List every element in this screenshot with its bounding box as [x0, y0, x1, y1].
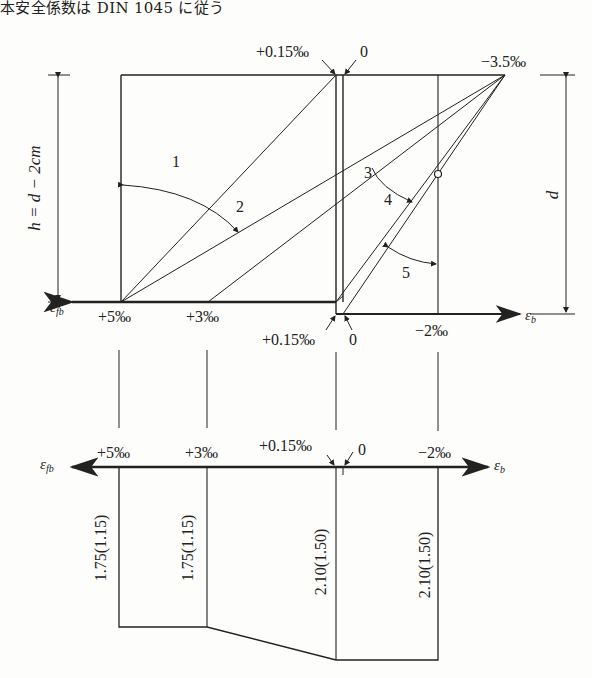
label-bottom-zero: 0: [349, 331, 357, 348]
label-d-dimension: d: [543, 190, 562, 199]
label-top-zero: 0: [360, 43, 368, 60]
arc-region-5: [388, 247, 436, 264]
label-minus-2: −2‰: [415, 322, 448, 339]
pivot-point: [435, 171, 442, 178]
lower-axis-label-eps-fb: εfb: [40, 456, 54, 474]
label-plus-3: +3‰: [186, 308, 219, 325]
arc-region-3-4: [372, 168, 412, 202]
label-bottom-plus-015: +0.15‰: [262, 331, 315, 348]
arc-region-1-2: [123, 185, 238, 232]
upper-diagram: [48, 60, 575, 330]
region-label-1: 1: [172, 153, 180, 170]
factor-plus-5: 1.75(1.15): [92, 515, 110, 582]
label-plus-5: +5‰: [98, 308, 131, 325]
label-top-minus-35: −3.5‰: [481, 53, 526, 70]
lower-label-plus-5: +5‰: [97, 444, 130, 461]
region-label-5: 5: [402, 264, 410, 281]
region-label-3: 3: [364, 164, 372, 181]
lower-axis-label-eps-b: εb: [494, 457, 505, 475]
label-h-dimension: h = d − 2cm: [25, 145, 44, 230]
factor-plus-3: 1.75(1.15): [179, 515, 197, 582]
axis-label-eps-b: εb: [525, 307, 536, 325]
factor-minus-2: 2.10(1.50): [416, 532, 434, 599]
region-label-2: 2: [236, 198, 244, 215]
connector-lines: [119, 350, 438, 431]
lower-label-minus-2: −2‰: [418, 444, 451, 461]
lower-label-plus-015: +0.15‰: [259, 437, 312, 454]
safety-factor-profile: [119, 467, 438, 660]
label-top-plus-015: +0.15‰: [256, 43, 309, 60]
lower-label-plus-3: +3‰: [185, 444, 218, 461]
lower-label-zero: 0: [358, 441, 366, 458]
factor-plus-015: 2.10(1.50): [312, 529, 330, 596]
strain-diagram: +0.15‰ 0 −3.5‰ +5‰ +3‰ +0.15‰ 0 −2‰ εfb …: [0, 0, 592, 678]
region-label-4: 4: [384, 191, 392, 208]
